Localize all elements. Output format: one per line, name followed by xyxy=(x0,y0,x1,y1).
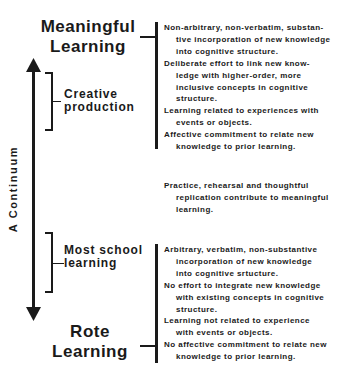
arrow-down-icon xyxy=(26,307,41,321)
axis-label-wrap: A Continuum xyxy=(0,182,64,196)
meaningful-item-4: Affective commitment to relate new knowl… xyxy=(164,129,330,153)
creative-bracket-tick xyxy=(52,101,61,102)
axis-label: A Continuum xyxy=(7,139,21,239)
rote-item-4: No affective commitment to relate new kn… xyxy=(164,339,327,363)
arrow-up-icon xyxy=(26,58,41,72)
meaningful-item-3: Learning related to experiences with eve… xyxy=(164,105,330,129)
meaningful-learning-title: Meaningful Learning xyxy=(38,17,138,57)
creative-production-label: Creative production xyxy=(64,88,135,114)
most-school-learning-label: Most school learning xyxy=(64,244,143,270)
school-bracket-tick xyxy=(52,263,64,264)
rote-item-1: Arbitrary, verbatim, non-substantive inc… xyxy=(164,244,327,280)
practice-note: Practice, rehearsal and thoughtful repli… xyxy=(164,180,329,216)
meaningful-item-2: Deliberate effort to link new know- ledg… xyxy=(164,58,330,106)
rote-learning-title: Rote Learning xyxy=(40,322,140,362)
bottom-bracket-tick xyxy=(140,345,156,347)
meaningful-description-list: Non-arbitrary, non-verbatim, substan- ti… xyxy=(164,22,330,153)
school-bracket-bottom xyxy=(45,291,53,293)
top-bracket-tick xyxy=(140,36,156,38)
creative-bracket-bottom xyxy=(45,129,53,131)
top-bracket-vertical xyxy=(155,22,158,149)
rote-description-list: Arbitrary, verbatim, non-substantive inc… xyxy=(164,244,327,363)
rote-item-2: No effort to integrate new knowledge wit… xyxy=(164,280,327,316)
rote-item-3: Learning not related to experience with … xyxy=(164,315,327,339)
meaningful-item-1: Non-arbitrary, non-verbatim, substan- ti… xyxy=(164,22,330,58)
